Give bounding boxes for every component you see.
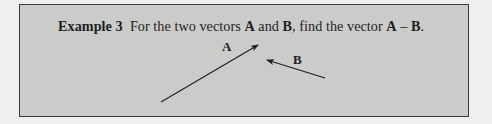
example-box: Example 3 For the two vectors A and B, f…	[19, 4, 469, 117]
vector-diagram	[20, 5, 470, 118]
vector-b-label: B	[293, 52, 302, 68]
vector-a-arrow	[161, 45, 258, 102]
vector-a-label: A	[222, 39, 231, 55]
